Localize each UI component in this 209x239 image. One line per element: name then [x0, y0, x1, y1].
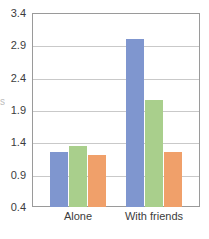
y-tick-label-1.4: 1.4 — [11, 136, 26, 148]
y-tick-label-0.4: 0.4 — [11, 201, 26, 213]
bar-chart-figure: s 3.4 2.9 2.4 1.9 1.4 0.9 0.4 Alone With… — [0, 0, 209, 239]
bar-alone-series-3 — [88, 155, 106, 207]
x-axis: Alone With friends — [32, 210, 200, 234]
bar-withfriends-series-1 — [126, 39, 144, 207]
bar-withfriends-series-2 — [145, 100, 163, 207]
y-tick-label-0.9: 0.9 — [11, 169, 26, 181]
y-tick-label-1.9: 1.9 — [11, 104, 26, 116]
bar-alone-series-2 — [69, 146, 87, 207]
y-tick-label-3.4: 3.4 — [11, 7, 26, 19]
bars-layer — [32, 13, 200, 207]
y-tick-label-2.9: 2.9 — [11, 39, 26, 51]
y-axis: 3.4 2.9 2.4 1.9 1.4 0.9 0.4 — [0, 0, 30, 239]
x-tick-label-alone: Alone — [64, 210, 92, 222]
y-tick-label-2.4: 2.4 — [11, 72, 26, 84]
bar-withfriends-series-3 — [164, 152, 182, 207]
bar-alone-series-1 — [50, 152, 68, 207]
x-tick-label-with-friends: With friends — [125, 210, 183, 222]
